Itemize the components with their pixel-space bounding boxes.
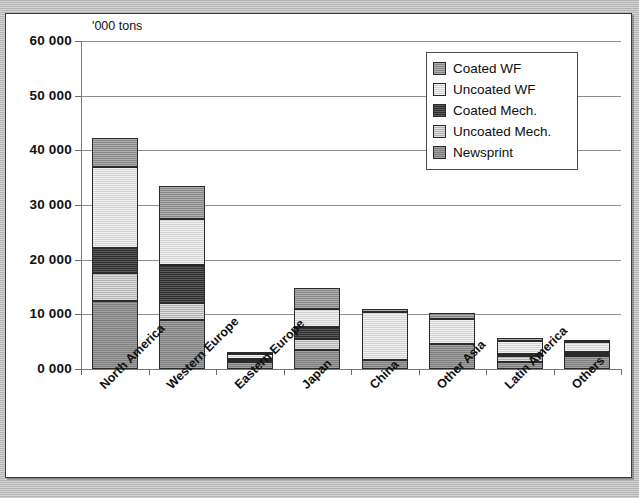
legend-swatch-icon: [433, 146, 446, 159]
x-axis-tick: [351, 369, 352, 375]
legend-item-coated-mech[interactable]: Coated Mech.: [433, 100, 571, 121]
x-axis-tick: [419, 369, 420, 375]
legend-item-coated-wf[interactable]: Coated WF: [433, 58, 571, 79]
legend-item-newsprint[interactable]: Newsprint: [433, 142, 571, 163]
legend-item-label: Coated Mech.: [453, 104, 537, 118]
bar-segment-uncoated-mech-[interactable]: [294, 339, 340, 350]
bar-segment-coated-wf[interactable]: [497, 338, 543, 341]
y-axis-tick-label: 10 000: [6, 307, 72, 321]
x-axis-tick: [486, 369, 487, 375]
legend-swatch-icon: [433, 62, 446, 75]
bar-segment-coated-mech-[interactable]: [564, 352, 610, 354]
legend-item-label: Uncoated WF: [453, 83, 536, 97]
legend-swatch-icon: [433, 125, 446, 138]
legend-item-label: Coated WF: [453, 62, 521, 76]
y-axis-tick-label: 60 000: [6, 34, 72, 48]
x-axis-tick: [554, 369, 555, 375]
y-axis-tick-label: 0 000: [6, 362, 72, 376]
legend: Coated WFUncoated WFCoated Mech.Uncoated…: [426, 52, 578, 170]
legend-item-label: Uncoated Mech.: [453, 125, 551, 139]
figure-card: '000 tons 0 00010 00020 00030 00040 0005…: [5, 13, 632, 478]
bar-segment-uncoated-mech-[interactable]: [564, 354, 610, 356]
bar-segment-uncoated-wf[interactable]: [159, 219, 205, 265]
y-axis-tick-label: 50 000: [6, 89, 72, 103]
x-axis-tick: [284, 369, 285, 375]
y-axis-line: [81, 41, 82, 370]
bar-segment-coated-wf[interactable]: [294, 288, 340, 310]
bar-china[interactable]: [362, 41, 408, 369]
stacked-bar-chart: '000 tons 0 00010 00020 00030 00040 0005…: [6, 14, 631, 477]
x-axis-tick: [621, 369, 622, 375]
y-axis-tick-label: 20 000: [6, 253, 72, 267]
bar-segment-coated-wf[interactable]: [564, 340, 610, 342]
bar-segment-uncoated-wf[interactable]: [564, 342, 610, 352]
bar-segment-coated-wf[interactable]: [92, 138, 138, 166]
bar-segment-uncoated-wf[interactable]: [362, 312, 408, 360]
bar-segment-coated-mech-[interactable]: [92, 248, 138, 274]
bar-segment-coated-mech-[interactable]: [159, 265, 205, 304]
legend-swatch-icon: [433, 83, 446, 96]
x-axis-tick: [81, 369, 82, 375]
bar-segment-uncoated-wf[interactable]: [92, 167, 138, 248]
bar-segment-coated-wf[interactable]: [429, 313, 475, 318]
legend-item-uncoated-wf[interactable]: Uncoated WF: [433, 79, 571, 100]
bar-segment-uncoated-mech-[interactable]: [159, 303, 205, 319]
bar-segment-uncoated-wf[interactable]: [429, 319, 475, 345]
legend-item-uncoated-mech[interactable]: Uncoated Mech.: [433, 121, 571, 142]
y-axis-tick-label: 30 000: [6, 198, 72, 212]
bar-western-europe[interactable]: [159, 41, 205, 369]
x-axis-tick: [149, 369, 150, 375]
x-axis-tick: [216, 369, 217, 375]
y-axis-units-label: '000 tons: [92, 19, 142, 33]
legend-item-label: Newsprint: [453, 146, 513, 160]
legend-swatch-icon: [433, 104, 446, 117]
bar-segment-coated-wf[interactable]: [159, 186, 205, 219]
bar-segment-coated-wf[interactable]: [362, 309, 408, 312]
bar-segment-uncoated-mech-[interactable]: [92, 273, 138, 301]
y-axis-tick-label: 40 000: [6, 143, 72, 157]
bar-north-america[interactable]: [92, 41, 138, 369]
